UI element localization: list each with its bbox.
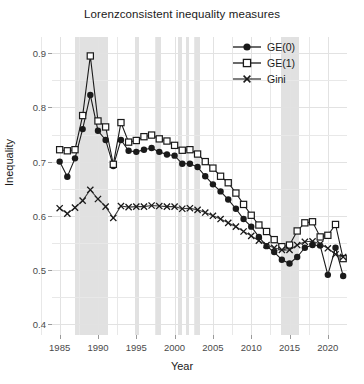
data-point bbox=[340, 273, 346, 279]
data-point bbox=[141, 134, 147, 140]
data-point bbox=[64, 174, 70, 180]
data-point bbox=[87, 53, 93, 59]
data-point bbox=[240, 201, 246, 207]
data-point bbox=[95, 118, 101, 124]
data-point bbox=[133, 149, 139, 155]
data-point bbox=[225, 180, 231, 186]
data-point bbox=[294, 228, 300, 234]
legend-item-ge0: GE(0) bbox=[232, 41, 295, 53]
legend-label-ge0: GE(0) bbox=[267, 41, 295, 53]
x-axis-tick-mark bbox=[98, 335, 99, 339]
x-axis-tick-label: 2010 bbox=[241, 342, 262, 353]
plot-area: 0.40.50.60.70.80.9 198519901995200020052… bbox=[52, 37, 347, 335]
data-point bbox=[248, 212, 254, 218]
data-point bbox=[118, 120, 124, 126]
data-point bbox=[233, 224, 239, 230]
x-axis-tick-label: 2020 bbox=[317, 342, 338, 353]
y-axis-label: Inequality bbox=[3, 139, 15, 186]
legend-label-gini: Gini bbox=[267, 73, 286, 85]
data-point bbox=[309, 219, 315, 225]
data-point bbox=[225, 196, 231, 202]
data-point bbox=[248, 223, 254, 229]
data-point bbox=[103, 124, 109, 130]
data-point bbox=[80, 112, 86, 118]
data-point bbox=[325, 272, 331, 278]
data-point bbox=[294, 254, 300, 260]
data-point bbox=[217, 173, 223, 179]
x-axis-tick-label: 1995 bbox=[126, 342, 147, 353]
data-point bbox=[325, 245, 331, 251]
y-axis-tick-label: 0.4 bbox=[33, 319, 46, 330]
data-point bbox=[110, 215, 116, 221]
data-point bbox=[233, 190, 239, 196]
series-line bbox=[60, 190, 344, 257]
data-point bbox=[210, 165, 216, 171]
data-point bbox=[164, 138, 170, 144]
data-point bbox=[202, 209, 208, 215]
data-point bbox=[194, 151, 200, 157]
gridline-vertical-minor bbox=[41, 37, 42, 335]
data-point bbox=[148, 145, 154, 151]
data-point bbox=[179, 161, 185, 167]
chart-figure: Lorenzconsistent inequality measures Ine… bbox=[0, 0, 364, 384]
legend-item-gini: Gini bbox=[232, 73, 295, 85]
data-point bbox=[125, 148, 131, 154]
legend-marker-x bbox=[232, 73, 262, 85]
data-point bbox=[149, 132, 155, 138]
data-point bbox=[57, 147, 63, 153]
data-point bbox=[256, 222, 262, 228]
legend-marker-open-square bbox=[232, 57, 262, 69]
legend-item-ge1: GE(1) bbox=[232, 57, 295, 69]
data-point bbox=[325, 232, 331, 238]
data-point bbox=[72, 147, 78, 153]
data-point bbox=[302, 245, 308, 251]
data-point bbox=[217, 216, 223, 222]
data-point bbox=[332, 221, 338, 227]
y-axis-tick-label: 0.7 bbox=[33, 156, 46, 167]
data-point bbox=[271, 237, 277, 243]
data-point bbox=[172, 142, 178, 148]
data-point bbox=[225, 220, 231, 226]
legend-label-ge1: GE(1) bbox=[267, 57, 295, 69]
data-point bbox=[133, 137, 139, 143]
data-point bbox=[164, 151, 170, 157]
x-axis-tick-label: 2005 bbox=[202, 342, 223, 353]
data-point bbox=[95, 128, 101, 134]
data-point bbox=[187, 161, 193, 167]
x-axis-tick-mark bbox=[328, 335, 329, 339]
x-axis-tick-label: 1990 bbox=[87, 342, 108, 353]
series-canvas bbox=[52, 37, 347, 335]
data-point bbox=[179, 147, 185, 153]
data-point bbox=[279, 256, 285, 262]
x-axis-tick-mark bbox=[60, 335, 61, 339]
data-point bbox=[171, 152, 177, 158]
data-point bbox=[263, 228, 269, 234]
x-axis-tick-mark bbox=[290, 335, 291, 339]
data-point bbox=[95, 196, 101, 202]
data-point bbox=[332, 245, 338, 251]
series-ge1 bbox=[57, 53, 347, 262]
x-axis-tick-label: 2000 bbox=[164, 342, 185, 353]
data-point bbox=[248, 233, 254, 239]
data-point bbox=[57, 205, 63, 211]
data-point bbox=[80, 198, 86, 204]
data-point bbox=[202, 173, 208, 179]
data-point bbox=[240, 228, 246, 234]
data-point bbox=[302, 220, 308, 226]
x-axis-tick-mark bbox=[251, 335, 252, 339]
series-line bbox=[60, 95, 344, 276]
x-axis-tick-mark bbox=[136, 335, 137, 339]
y-axis-tick-label: 0.8 bbox=[33, 102, 46, 113]
x-axis-tick-mark bbox=[213, 335, 214, 339]
data-point bbox=[286, 260, 292, 266]
data-point bbox=[210, 213, 216, 219]
chart-legend: GE(0) GE(1) Gini bbox=[232, 41, 295, 85]
legend-marker-filled-circle bbox=[232, 41, 262, 53]
data-point bbox=[210, 181, 216, 187]
data-point bbox=[56, 158, 62, 164]
data-point bbox=[72, 155, 78, 161]
data-point bbox=[217, 188, 223, 194]
data-point bbox=[126, 139, 132, 145]
data-point bbox=[156, 136, 162, 142]
data-point bbox=[141, 147, 147, 153]
